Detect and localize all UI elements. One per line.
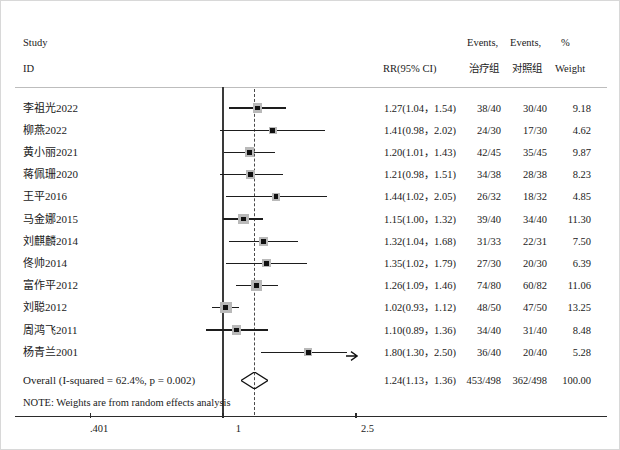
weight-value: 4.85 <box>1 191 591 202</box>
header-events-ctrl-top: Events, <box>510 37 541 48</box>
weight-value: 8.23 <box>1 169 591 180</box>
header-percent: % <box>561 37 570 48</box>
note-text: NOTE: Weights are from random effects an… <box>23 397 231 408</box>
header-events-treat-sub: 治疗组 <box>469 63 499 74</box>
forest-plot-figure: Study ID RR(95% CI) Events, Events, % 治疗… <box>0 0 620 450</box>
weight-value: 7.50 <box>1 236 591 247</box>
weight-value: 13.25 <box>1 302 591 313</box>
header-divider <box>15 87 607 88</box>
header-weight: Weight <box>555 63 585 74</box>
axis-tick-label: 2.5 <box>1 424 374 435</box>
header-study: Study <box>23 37 48 48</box>
axis-tick <box>222 413 223 418</box>
x-axis-line <box>15 416 607 417</box>
weight-value: 11.06 <box>1 280 591 291</box>
header-events-treat-top: Events, <box>467 37 498 48</box>
header-effect: RR(95% CI) <box>383 63 436 74</box>
weight-value: 9.18 <box>1 103 591 114</box>
weight-value: 6.39 <box>1 258 591 269</box>
weight-value: 9.87 <box>1 147 591 158</box>
axis-tick <box>355 413 356 418</box>
axis-tick <box>90 413 91 418</box>
weight-value: 4.62 <box>1 125 591 136</box>
pooled-effect-line <box>254 89 255 415</box>
header-id: ID <box>23 63 34 74</box>
header-events-ctrl-sub: 对照组 <box>512 63 542 74</box>
weight-value: 5.28 <box>1 347 591 358</box>
weight-value: 11.30 <box>1 214 591 225</box>
reference-line <box>222 87 223 417</box>
weight-value: 8.48 <box>1 325 591 336</box>
overall-weight: 100.00 <box>1 375 591 386</box>
